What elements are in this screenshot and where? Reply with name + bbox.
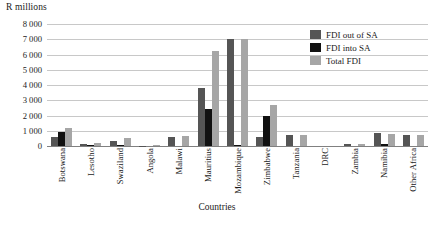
- x-axis-tick-label: Botswana: [57, 148, 67, 182]
- legend-swatch-icon: [310, 30, 321, 39]
- bar: [381, 144, 388, 146]
- legend-swatch-icon: [310, 56, 321, 65]
- legend-label: Total FDI: [326, 56, 361, 66]
- x-axis-tick-label: Zambia: [350, 148, 360, 175]
- x-axis-tick-label-cell: Namibia: [369, 147, 398, 199]
- x-axis-tick-label-cell: Botswana: [47, 147, 76, 199]
- x-axis-tick-label: Tanzania: [291, 148, 301, 179]
- y-axis-tick-label: 5 000: [23, 65, 42, 75]
- x-axis-tick-label: Swaziland: [115, 148, 125, 184]
- bar: [110, 141, 117, 146]
- legend-item[interactable]: Total FDI: [310, 55, 378, 66]
- bar: [227, 39, 234, 146]
- x-axis-tick-label-cell: Lesotho: [76, 147, 105, 199]
- bar: [124, 138, 131, 146]
- x-axis-tick-label: Lesotho: [86, 148, 96, 176]
- bar-group: [194, 24, 223, 146]
- legend-label: FDI into SA: [326, 43, 371, 53]
- x-axis-tick-label: Other Africa: [408, 148, 418, 192]
- bar-chart: R millions 8 0007 0006 0005 0004 0003 00…: [0, 0, 434, 225]
- bar: [388, 134, 395, 146]
- bar-group: [135, 24, 164, 146]
- x-axis-tick-label-cell: Mauritius: [194, 147, 223, 199]
- bar: [51, 137, 58, 146]
- bar-group: [106, 24, 135, 146]
- x-axis-tick-label: Namibia: [379, 148, 389, 178]
- bar: [270, 105, 277, 146]
- legend: FDI out of SAFDI into SATotal FDI: [310, 29, 378, 66]
- bar: [153, 145, 160, 146]
- bar-group: [164, 24, 193, 146]
- x-axis-title: Countries: [0, 202, 434, 212]
- legend-item[interactable]: FDI out of SA: [310, 29, 378, 40]
- bar: [212, 51, 219, 146]
- x-axis-tick-labels: BotswanaLesothoSwazilandAngolaMalawiMaur…: [47, 147, 428, 199]
- y-axis-unit-label: R millions: [6, 2, 47, 12]
- legend-item[interactable]: FDI into SA: [310, 42, 378, 53]
- legend-label: FDI out of SA: [326, 30, 378, 40]
- bar: [58, 132, 65, 146]
- y-axis-tick-label: 2 000: [23, 111, 42, 121]
- x-axis-tick-label: DRC: [320, 148, 330, 166]
- bar: [286, 135, 293, 146]
- x-axis-tick-label-cell: DRC: [311, 147, 340, 199]
- bar: [182, 136, 189, 146]
- bar: [300, 135, 307, 146]
- y-axis-tick-label: 7 000: [23, 34, 42, 44]
- x-axis-tick-label: Angola: [145, 148, 155, 174]
- bar: [374, 133, 381, 146]
- bar: [358, 144, 365, 146]
- bar: [80, 144, 87, 146]
- bar: [205, 109, 212, 146]
- y-axis-tick-labels: 8 0007 0006 0005 0004 0003 0002 0001 000…: [0, 24, 45, 146]
- bar: [256, 137, 263, 146]
- y-axis-tick-label: 8 000: [23, 19, 42, 29]
- y-axis-tick-label: 4 000: [23, 80, 42, 90]
- bar: [417, 135, 424, 146]
- bar: [117, 145, 124, 146]
- bar: [168, 137, 175, 146]
- x-axis-tick-label: Mozambique: [233, 148, 243, 194]
- x-axis-tick-label-cell: Swaziland: [106, 147, 135, 199]
- bar-group: [76, 24, 105, 146]
- x-axis-tick-label: Malawi: [174, 148, 184, 175]
- legend-swatch-icon: [310, 43, 321, 52]
- x-axis-tick-label-cell: Mozambique: [223, 147, 252, 199]
- y-axis-tick-label: 1 000: [23, 126, 42, 136]
- bar-group: [399, 24, 428, 146]
- x-axis-tick-label: Zimbabwe: [262, 148, 272, 185]
- y-axis-tick-label: 3 000: [23, 95, 42, 105]
- x-axis-tick-label-cell: Zimbabwe: [252, 147, 281, 199]
- bar-group: [252, 24, 281, 146]
- bar: [263, 116, 270, 147]
- x-axis-tick-label-cell: Malawi: [164, 147, 193, 199]
- bar-group: [223, 24, 252, 146]
- bar-group: [282, 24, 311, 146]
- y-axis-tick-label: 0: [38, 141, 42, 151]
- bar: [241, 39, 248, 146]
- bar: [94, 143, 101, 146]
- x-axis-tick-label-cell: Tanzania: [282, 147, 311, 199]
- x-axis-tick-label-cell: Angola: [135, 147, 164, 199]
- bar-group: [47, 24, 76, 146]
- x-axis-tick-label-cell: Zambia: [340, 147, 369, 199]
- x-axis-tick-label-cell: Other Africa: [399, 147, 428, 199]
- bar: [234, 145, 241, 146]
- x-axis-tick-label: Mauritius: [203, 148, 213, 182]
- y-axis-tick-label: 6 000: [23, 50, 42, 60]
- bar: [344, 144, 351, 146]
- bar: [198, 88, 205, 146]
- bar: [65, 128, 72, 146]
- bar: [87, 145, 94, 146]
- bar: [403, 135, 410, 146]
